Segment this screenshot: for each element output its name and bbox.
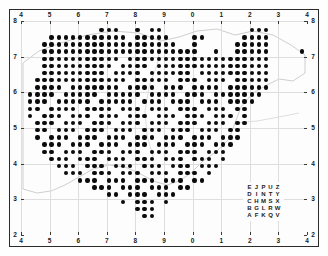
map-dot	[242, 99, 246, 103]
map-dot	[178, 128, 182, 132]
map-dot	[92, 49, 96, 53]
map-dot	[85, 92, 89, 96]
map-dot	[135, 150, 139, 154]
map-dot	[114, 178, 118, 182]
map-dot	[142, 157, 146, 161]
map-dot	[185, 171, 189, 175]
map-dot	[64, 35, 68, 39]
map-dot	[57, 85, 61, 89]
map-dot	[178, 164, 182, 168]
map-dot	[142, 214, 146, 218]
axis-tick-label: 6	[73, 11, 83, 19]
legend-letter: H	[253, 198, 260, 205]
map-dot	[164, 135, 168, 139]
map-dot	[228, 57, 232, 61]
map-dot	[42, 64, 46, 68]
map-dot	[99, 64, 103, 68]
map-dot	[242, 92, 246, 96]
map-dot	[92, 150, 96, 154]
legend-letter: G	[253, 205, 260, 212]
axis-tick-label: 9	[159, 11, 169, 19]
map-dot	[71, 49, 75, 53]
legend-letter: K	[260, 212, 267, 219]
map-dot	[242, 71, 246, 75]
map-dot	[207, 107, 211, 111]
map-dot	[171, 92, 175, 96]
map-dot	[185, 107, 189, 111]
map-dot	[135, 78, 139, 82]
map-dot	[164, 42, 168, 46]
map-dot	[135, 121, 139, 125]
polybius-square-legend: EJPUZDINTYCHMSXBGLRWAFKQV	[243, 182, 284, 221]
map-dot	[142, 85, 146, 89]
map-dot	[242, 85, 246, 89]
axis-tick-label: 7	[11, 53, 19, 61]
map-dot	[99, 142, 103, 146]
map-dot	[121, 42, 125, 46]
map-dot	[42, 85, 46, 89]
map-dot	[64, 99, 68, 103]
map-dot	[92, 107, 96, 111]
map-dot	[257, 57, 261, 61]
map-dot	[200, 164, 204, 168]
map-dot	[135, 207, 139, 211]
map-dot	[157, 107, 161, 111]
map-dot	[85, 99, 89, 103]
map-dot	[228, 142, 232, 146]
map-dot	[35, 78, 39, 82]
map-dot	[57, 164, 61, 168]
map-dot	[164, 150, 168, 154]
legend-row: DINTY	[246, 191, 281, 198]
map-dot	[92, 178, 96, 182]
map-dot	[242, 107, 246, 111]
axis-tick-label: 3	[11, 195, 19, 203]
map-dot	[150, 207, 154, 211]
map-dot	[171, 42, 175, 46]
axis-tick-mark	[78, 232, 79, 235]
map-dot	[214, 150, 218, 154]
map-dot	[114, 99, 118, 103]
map-dot	[78, 42, 82, 46]
map-dot	[200, 57, 204, 61]
map-dot	[235, 85, 239, 89]
map-dot	[185, 185, 189, 189]
legend-letter: U	[267, 184, 274, 191]
legend-letter: C	[246, 198, 253, 205]
map-dot	[192, 178, 196, 182]
axis-tick-mark	[21, 57, 24, 58]
map-dot	[235, 92, 239, 96]
axis-tick-mark	[164, 21, 165, 24]
map-dot	[114, 49, 118, 53]
map-dot	[35, 107, 39, 111]
map-dot	[235, 57, 239, 61]
map-dot	[228, 135, 232, 139]
map-dot	[200, 114, 204, 118]
map-dot	[107, 185, 111, 189]
map-dot	[185, 121, 189, 125]
map-dot	[49, 57, 53, 61]
map-dot	[49, 64, 53, 68]
legend-letter: X	[274, 198, 281, 205]
map-dot	[135, 192, 139, 196]
map-dot	[99, 42, 103, 46]
axis-tick-label: 0	[188, 237, 198, 245]
map-dot	[250, 85, 254, 89]
map-dot	[185, 99, 189, 103]
legend-row: EJPUZ	[246, 184, 281, 191]
map-dot	[42, 114, 46, 118]
map-dot	[264, 49, 268, 53]
map-dot	[64, 157, 68, 161]
legend-letter: I	[253, 191, 260, 198]
map-dot	[178, 135, 182, 139]
map-dot	[235, 99, 239, 103]
axis-tick-label: 2	[245, 11, 255, 19]
axis-tick-label: 0	[188, 11, 198, 19]
map-dot	[242, 114, 246, 118]
map-dot	[135, 157, 139, 161]
map-dot	[42, 99, 46, 103]
map-dot	[192, 49, 196, 53]
axis-tick-mark	[50, 232, 51, 235]
axis-tick-mark	[304, 92, 307, 93]
map-dot	[85, 142, 89, 146]
map-dot	[235, 49, 239, 53]
